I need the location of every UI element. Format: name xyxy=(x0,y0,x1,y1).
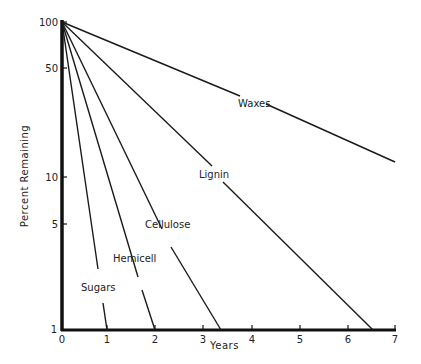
series-waxes xyxy=(62,22,240,96)
y-axis-label: Percent Remaining xyxy=(19,125,30,227)
svg-text:5: 5 xyxy=(297,334,303,345)
label-cellulose: Cellulose xyxy=(145,219,190,230)
series-labels: Sugars Hemicell Cellulose Lignin Waxes xyxy=(81,98,270,293)
svg-text:6: 6 xyxy=(345,334,351,345)
svg-text:100: 100 xyxy=(39,17,58,28)
label-lignin: Lignin xyxy=(199,169,229,180)
svg-text:3: 3 xyxy=(200,334,206,345)
svg-text:1: 1 xyxy=(104,334,110,345)
svg-text:1: 1 xyxy=(51,324,57,335)
label-sugars: Sugars xyxy=(81,282,115,293)
svg-text:50: 50 xyxy=(45,63,58,74)
svg-text:0: 0 xyxy=(59,334,65,345)
series-lignin xyxy=(62,22,212,166)
svg-text:2: 2 xyxy=(152,334,158,345)
svg-text:5: 5 xyxy=(52,219,58,230)
svg-text:4: 4 xyxy=(249,334,255,345)
label-waxes: Waxes xyxy=(238,98,270,109)
svg-text:10: 10 xyxy=(45,172,58,183)
series-hemicell xyxy=(62,22,138,277)
decay-chart: 100 50 10 5 1 0 1 2 3 4 5 6 7 Years Perc… xyxy=(0,0,421,364)
x-axis-label: Years xyxy=(209,340,239,351)
svg-text:7: 7 xyxy=(392,334,398,345)
label-hemicell: Hemicell xyxy=(113,253,156,264)
y-tick-labels: 100 50 10 5 1 xyxy=(39,17,58,335)
